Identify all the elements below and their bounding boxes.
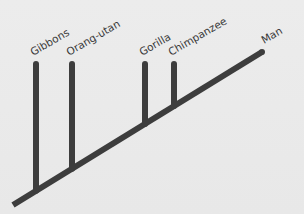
label-man: Man (259, 24, 284, 45)
label-gibbons: Gibbons (28, 26, 71, 58)
label-gorilla: Gorilla (137, 30, 173, 57)
main-lineage-branch (13, 52, 262, 205)
phylogeny-diagram: GibbonsOrang-utanGorillaChimpanzeeMan (0, 0, 304, 214)
label-chimpanzee: Chimpanzee (166, 15, 229, 58)
label-orang-utan: Orang-utan (64, 17, 122, 57)
tree-svg: GibbonsOrang-utanGorillaChimpanzeeMan (0, 0, 304, 214)
